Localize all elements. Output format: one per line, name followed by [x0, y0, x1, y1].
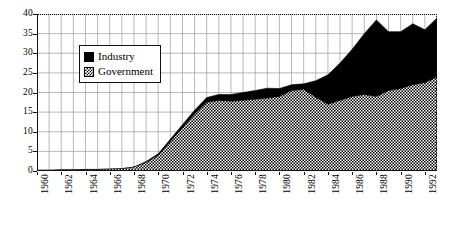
x-tick-label: 1990	[405, 174, 415, 194]
x-tick-label: 1976	[235, 174, 245, 194]
y-tick-label: 5	[5, 146, 33, 156]
checkered-swatch-icon	[84, 67, 94, 77]
y-tick-label: 30	[5, 48, 33, 58]
y-tick-label: 10	[5, 127, 33, 137]
x-tick-mark	[61, 172, 62, 175]
x-tick-label: 1960	[41, 174, 51, 194]
x-tick-label: 1968	[138, 174, 148, 194]
y-tick-label: 40	[5, 9, 33, 19]
y-tick-label: 0	[5, 166, 33, 176]
plot-frame	[37, 14, 437, 171]
y-tick-label: 15	[5, 107, 33, 117]
x-tick-label: 1992	[429, 174, 439, 194]
legend-label-industry: Industry	[98, 51, 135, 62]
x-tick-mark	[183, 172, 184, 175]
x-tick-label: 1988	[380, 174, 390, 194]
x-tick-mark	[134, 172, 135, 175]
x-tick-mark	[304, 172, 305, 175]
x-tick-label: 1984	[332, 174, 342, 194]
x-tick-label: 1980	[283, 174, 293, 194]
x-tick-mark	[328, 172, 329, 175]
x-tick-mark	[401, 172, 402, 175]
x-tick-label: 1962	[65, 174, 75, 194]
y-tick-label: 35	[5, 29, 33, 39]
legend-item-government: Government	[84, 64, 153, 79]
x-tick-label: 1964	[90, 174, 100, 194]
x-axis: 1960196219641966196819701972197419761978…	[37, 172, 437, 225]
y-tick-label: 20	[5, 88, 33, 98]
x-tick-mark	[279, 172, 280, 175]
x-tick-mark	[255, 172, 256, 175]
x-tick-label: 1986	[356, 174, 366, 194]
x-tick-label: 1978	[259, 174, 269, 194]
x-tick-mark	[207, 172, 208, 175]
x-tick-mark	[376, 172, 377, 175]
x-tick-mark	[37, 172, 38, 175]
y-axis: 0510152025303540	[0, 0, 33, 185]
x-tick-mark	[110, 172, 111, 175]
legend-item-industry: Industry	[84, 49, 153, 64]
x-tick-mark	[158, 172, 159, 175]
legend-label-government: Government	[98, 66, 153, 77]
x-tick-mark	[352, 172, 353, 175]
x-tick-label: 1982	[308, 174, 318, 194]
plot-area	[37, 14, 437, 171]
y-tick-label: 25	[5, 68, 33, 78]
x-tick-label: 1966	[114, 174, 124, 194]
x-tick-label: 1972	[187, 174, 197, 194]
x-tick-mark	[86, 172, 87, 175]
x-tick-label: 1970	[162, 174, 172, 194]
solid-black-swatch-icon	[84, 52, 94, 62]
x-tick-mark	[425, 172, 426, 175]
x-tick-mark	[231, 172, 232, 175]
chart-figure: 0510152025303540 19601962196419661968197…	[0, 0, 460, 225]
x-tick-label: 1974	[211, 174, 221, 194]
legend: Industry Government	[79, 45, 161, 83]
